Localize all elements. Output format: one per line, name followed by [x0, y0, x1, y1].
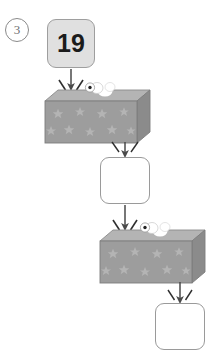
function-machine-2 [100, 223, 205, 284]
final-answer-box[interactable] [155, 303, 205, 350]
machine-2-knob-icon [140, 223, 149, 232]
machine-1-knob-icon [85, 83, 94, 92]
machine-2-front-face [100, 241, 192, 283]
input-value-box: 19 [47, 19, 95, 68]
function-machine-1 [45, 83, 150, 144]
arrow-middle-to-machine-2 [113, 205, 137, 230]
machine-1-front-face [45, 101, 137, 143]
function-machine-diagram: 3 [0, 0, 213, 357]
arrow-machine-2-to-output [168, 282, 192, 300]
arrow-input-to-machine-1 [59, 69, 83, 90]
arrow-machine-1-to-middle [112, 142, 138, 154]
intermediate-answer-box[interactable] [100, 157, 150, 204]
